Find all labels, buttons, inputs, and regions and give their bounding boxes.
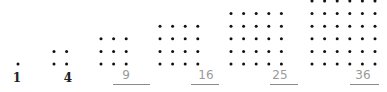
dot xyxy=(323,63,326,66)
dot xyxy=(348,37,351,40)
dot xyxy=(53,63,56,66)
dot xyxy=(171,25,174,28)
dot xyxy=(184,25,187,28)
dot xyxy=(311,0,314,3)
dot xyxy=(196,37,199,40)
dot xyxy=(374,37,377,40)
dot xyxy=(374,12,377,15)
dot xyxy=(159,25,162,28)
dot xyxy=(196,25,199,28)
dot xyxy=(311,25,314,28)
dot xyxy=(348,25,351,28)
dot xyxy=(336,12,339,15)
dot xyxy=(184,63,187,66)
dot xyxy=(348,63,351,66)
dot xyxy=(242,25,245,28)
dot xyxy=(171,50,174,53)
dot xyxy=(336,25,339,28)
dot xyxy=(311,63,314,66)
dot xyxy=(280,25,283,28)
dot xyxy=(184,50,187,53)
dot xyxy=(255,12,258,15)
dot xyxy=(17,63,20,66)
dot xyxy=(374,25,377,28)
dot xyxy=(171,63,174,66)
square-figure-36: 36 xyxy=(311,0,380,85)
square-number-label: 1 xyxy=(13,71,21,85)
dot xyxy=(361,0,364,3)
dot xyxy=(255,50,258,53)
dot xyxy=(267,63,270,66)
square-number-label: 4 xyxy=(64,71,72,85)
dot xyxy=(242,50,245,53)
dot xyxy=(230,25,233,28)
square-number-label: 25 xyxy=(272,68,287,82)
square-figure-16: 16 xyxy=(159,25,220,85)
dot xyxy=(336,50,339,53)
square-number-label: 36 xyxy=(355,68,370,82)
dot xyxy=(159,37,162,40)
dot xyxy=(348,12,351,15)
dot xyxy=(374,50,377,53)
dot xyxy=(323,0,326,3)
dot xyxy=(65,63,68,66)
dot xyxy=(159,63,162,66)
dot xyxy=(65,50,68,53)
dot xyxy=(361,37,364,40)
dot xyxy=(184,37,187,40)
dot xyxy=(242,63,245,66)
dot xyxy=(53,50,56,53)
dot xyxy=(230,63,233,66)
dot xyxy=(374,63,377,66)
dot xyxy=(267,50,270,53)
dot xyxy=(323,50,326,53)
dot xyxy=(323,25,326,28)
dot xyxy=(267,12,270,15)
dot xyxy=(348,0,351,3)
dot xyxy=(361,12,364,15)
dot xyxy=(311,37,314,40)
dot xyxy=(323,37,326,40)
dot xyxy=(112,37,115,40)
dot xyxy=(336,37,339,40)
dot xyxy=(280,12,283,15)
dot xyxy=(336,0,339,3)
dot xyxy=(361,50,364,53)
square-figure-25: 25 xyxy=(230,12,299,84)
dot xyxy=(100,63,103,66)
dot xyxy=(361,25,364,28)
dot xyxy=(255,25,258,28)
dot xyxy=(267,25,270,28)
dot xyxy=(242,12,245,15)
square-figure-9: 9 xyxy=(100,37,151,84)
dot xyxy=(159,50,162,53)
dot xyxy=(125,37,128,40)
dot xyxy=(348,50,351,53)
dot xyxy=(112,63,115,66)
dot xyxy=(242,37,245,40)
dot xyxy=(196,50,199,53)
dot xyxy=(100,50,103,53)
dot xyxy=(323,12,326,15)
dot xyxy=(125,50,128,53)
dot xyxy=(267,37,270,40)
dot xyxy=(255,37,258,40)
dot xyxy=(255,63,258,66)
dot xyxy=(280,50,283,53)
dot xyxy=(112,50,115,53)
dot xyxy=(125,63,128,66)
dot xyxy=(230,37,233,40)
dot xyxy=(171,37,174,40)
dot xyxy=(230,12,233,15)
dot xyxy=(374,0,377,3)
dot xyxy=(361,63,364,66)
square-figure-1: 1 xyxy=(13,63,21,86)
dot xyxy=(311,50,314,53)
dot xyxy=(230,50,233,53)
square-number-label: 16 xyxy=(198,68,213,82)
dot xyxy=(311,12,314,15)
square-numbers-diagram: 149162536 xyxy=(0,0,387,92)
dot xyxy=(280,63,283,66)
square-number-label: 9 xyxy=(122,68,130,82)
dot xyxy=(280,37,283,40)
